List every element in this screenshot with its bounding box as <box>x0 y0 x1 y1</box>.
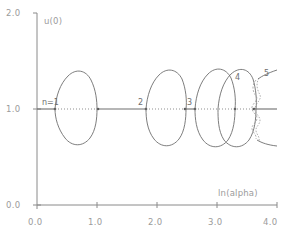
x-tick-label-4: 4.0 <box>263 217 277 227</box>
chart-canvas: 2.0 1.0 0.0 0.0 1.0 2.0 3.0 4.0 u(0) ln(… <box>0 0 283 238</box>
y-tick-label-0: 0.0 <box>6 200 20 210</box>
branch-label-3: 3 <box>187 98 192 107</box>
bifurcation-loop-2 <box>146 70 186 146</box>
tail-lower <box>257 140 277 146</box>
y-tick-label-2: 2.0 <box>6 8 20 18</box>
y-tick-label-1: 1.0 <box>6 104 20 114</box>
branch-label-2: 2 <box>138 98 143 107</box>
y-axis-title: u(0) <box>44 16 62 26</box>
bifurcation-chart: 2.0 1.0 0.0 0.0 1.0 2.0 3.0 4.0 u(0) ln(… <box>0 0 283 238</box>
x-tick-label-3: 3.0 <box>208 217 222 227</box>
branch-label-4: 4 <box>235 73 240 82</box>
x-tick-label-0: 0.0 <box>28 217 42 227</box>
bifurcation-loop-3 <box>195 69 235 147</box>
x-tick-label-1: 1.0 <box>88 217 102 227</box>
x-tick-label-2: 2.0 <box>148 217 162 227</box>
branch-label-5: 5 <box>264 69 269 78</box>
branch-5-tails <box>257 70 277 146</box>
x-axis-title: ln(alpha) <box>218 188 258 198</box>
branch-label-1: n=1 <box>42 98 59 107</box>
bifurcation-loop-1 <box>55 71 97 145</box>
